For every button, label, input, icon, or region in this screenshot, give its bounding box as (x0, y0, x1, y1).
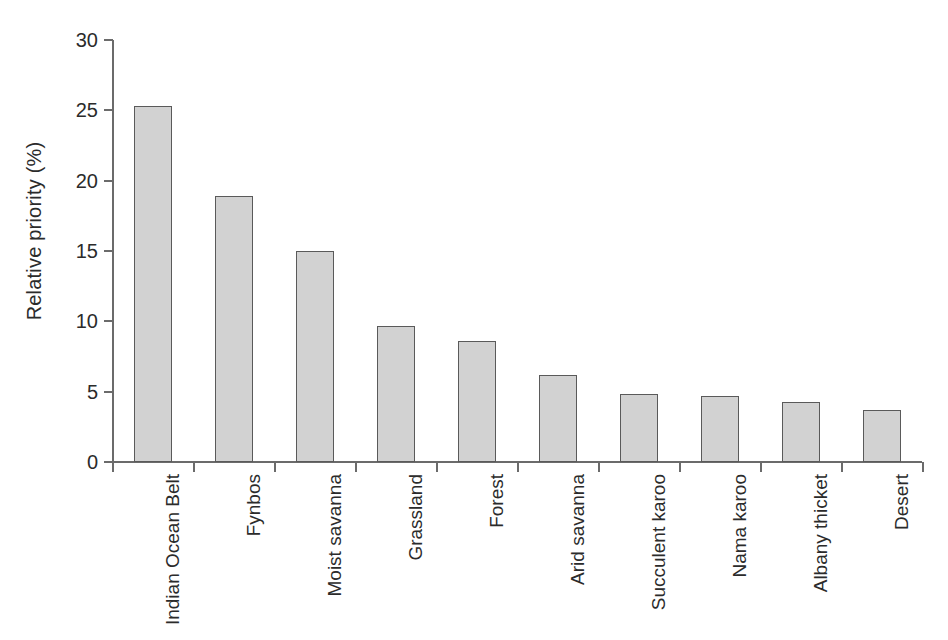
y-axis-tick-mark (104, 391, 113, 393)
bar (539, 375, 577, 462)
bar (215, 196, 253, 462)
x-axis-category-label: Nama karoo (730, 474, 750, 634)
x-axis-tick-mark (760, 462, 762, 472)
x-axis-category-label: Desert (892, 474, 912, 634)
bar (458, 341, 496, 462)
x-axis-tick-mark (355, 462, 357, 472)
x-axis-category-label: Albany thicket (811, 474, 831, 634)
x-axis-tick-mark (274, 462, 276, 472)
bar (782, 402, 820, 462)
x-axis-tick-mark (922, 462, 924, 472)
y-axis-tick-mark (104, 461, 113, 463)
y-axis-tick-mark (104, 39, 113, 41)
x-axis-category-label: Grassland (406, 474, 426, 634)
y-axis-tick-labels: 051015202530 (60, 0, 98, 640)
bar (863, 410, 901, 462)
y-axis-tick-mark (104, 180, 113, 182)
bar (134, 106, 172, 462)
bar (296, 251, 334, 462)
y-axis-tick-label: 20 (60, 171, 98, 191)
y-axis-tick-label: 10 (60, 311, 98, 331)
bar (701, 396, 739, 462)
x-axis-tick-mark (436, 462, 438, 472)
x-axis-category-label: Arid savanna (568, 474, 588, 634)
y-axis-title: Relative priority (%) (14, 0, 54, 462)
x-axis-tick-mark (841, 462, 843, 472)
y-axis-tick-label: 15 (60, 241, 98, 261)
x-axis-tick-mark (679, 462, 681, 472)
y-axis-tick-mark (104, 250, 113, 252)
y-axis-tick-mark (104, 109, 113, 111)
x-axis-category-label: Succulent karoo (649, 474, 669, 634)
y-axis-tick-label: 0 (60, 452, 98, 472)
x-axis-category-label: Forest (487, 474, 507, 634)
y-axis-tick-label: 25 (60, 100, 98, 120)
x-axis-tick-mark (112, 462, 114, 472)
x-axis-category-label: Fynbos (244, 474, 264, 634)
y-axis-tick-label: 5 (60, 382, 98, 402)
x-axis-category-label: Indian Ocean Belt (163, 474, 183, 634)
x-axis-tick-mark (598, 462, 600, 472)
y-axis-tick-label: 30 (60, 30, 98, 50)
x-axis-category-label: Moist savanna (325, 474, 345, 634)
y-axis-tick-mark (104, 320, 113, 322)
x-axis-tick-mark (193, 462, 195, 472)
bar (620, 394, 658, 462)
bar (377, 326, 415, 462)
x-axis-tick-mark (517, 462, 519, 472)
bar-chart: Relative priority (%) 051015202530 India… (0, 0, 948, 640)
